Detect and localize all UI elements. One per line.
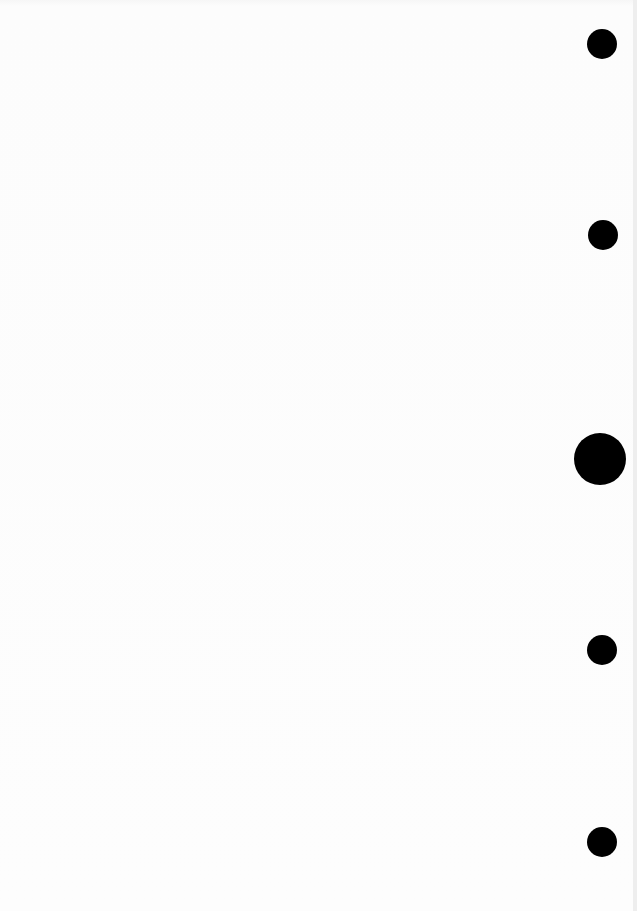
punch-hole-2 xyxy=(588,220,618,250)
punch-hole-4 xyxy=(587,635,617,665)
blank-page xyxy=(0,0,637,911)
page-edge-shadow xyxy=(633,0,637,911)
punch-hole-3 xyxy=(574,433,626,485)
punch-hole-1 xyxy=(587,29,617,59)
punch-hole-5 xyxy=(587,827,617,857)
